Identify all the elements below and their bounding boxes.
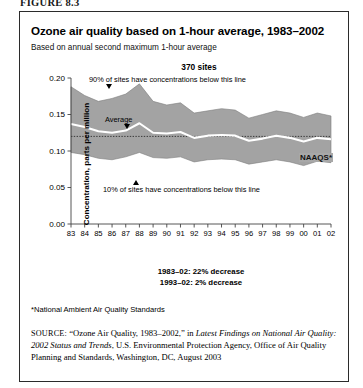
chart-plot-area: 0.000.050.100.150.2083848586878889909192… <box>31 74 337 254</box>
svg-text:96: 96 <box>245 229 253 238</box>
svg-text:89: 89 <box>149 229 157 238</box>
svg-text:92: 92 <box>190 229 198 238</box>
chart-subtitle: Based on annual second maximum 1-hour av… <box>31 43 337 52</box>
svg-text:0.10: 0.10 <box>49 147 65 156</box>
naaqs-reference-label: NAAQS* <box>299 153 333 162</box>
svg-text:93: 93 <box>204 229 212 238</box>
svg-text:87: 87 <box>122 229 130 238</box>
svg-text:0.20: 0.20 <box>49 74 65 83</box>
svg-text:99: 99 <box>286 229 294 238</box>
svg-text:01: 01 <box>313 229 321 238</box>
chart-title: Ozone air quality based on 1-hour averag… <box>31 24 337 37</box>
svg-text:86: 86 <box>108 229 116 238</box>
svg-text:83: 83 <box>67 229 75 238</box>
annotation-p10: 10% of sites have concentrations below t… <box>103 180 260 193</box>
pointer-triangle-icon <box>106 84 112 89</box>
svg-text:00: 00 <box>299 229 307 238</box>
annotation-average-text: Average <box>105 115 132 124</box>
svg-text:95: 95 <box>231 229 239 238</box>
annotation-p90-text: 90% of sites have concentrations below t… <box>89 75 246 84</box>
svg-text:98: 98 <box>272 229 280 238</box>
annotation-average: Average <box>105 116 132 129</box>
svg-text:91: 91 <box>176 229 184 238</box>
decrease-line-1: 1983–02: 22% decrease <box>65 267 337 278</box>
footnote: *National Ambient Air Quality Standards <box>31 305 337 314</box>
svg-text:84: 84 <box>80 229 88 238</box>
annotation-p90: 90% of sites have concentrations below t… <box>89 76 246 89</box>
figure-box: Ozone air quality based on 1-hour averag… <box>19 11 349 382</box>
svg-text:94: 94 <box>217 229 225 238</box>
decrease-line-2: 1993–02: 2% decrease <box>65 278 337 289</box>
sites-count-header: 370 sites <box>31 62 337 72</box>
svg-text:97: 97 <box>258 229 266 238</box>
source-prefix: SOURCE: <box>31 329 67 338</box>
svg-text:02: 02 <box>327 229 335 238</box>
annotation-p10-text: 10% of sites have concentrations below t… <box>103 185 260 194</box>
svg-text:0.15: 0.15 <box>49 110 65 119</box>
figure-label: FIGURE 8.3 <box>20 0 80 7</box>
svg-text:0.00: 0.00 <box>49 220 65 229</box>
figure-inner: Ozone air quality based on 1-hour averag… <box>20 12 348 381</box>
svg-text:85: 85 <box>94 229 102 238</box>
pointer-triangle-icon <box>124 124 130 129</box>
source-part-1: “Ozone Air Quality, 1983–2002,” in <box>67 328 196 338</box>
decrease-summary: 1983–02: 22% decrease 1993–02: 2% decrea… <box>31 267 337 289</box>
ozone-band-chart: 0.000.050.100.150.2083848586878889909192… <box>31 74 337 254</box>
y-axis-title: Concentration, parts per million <box>82 103 91 225</box>
source-note: SOURCE: “Ozone Air Quality, 1983–2002,” … <box>31 327 337 364</box>
svg-text:88: 88 <box>135 229 143 238</box>
svg-text:90: 90 <box>163 229 171 238</box>
svg-text:0.05: 0.05 <box>49 183 65 192</box>
